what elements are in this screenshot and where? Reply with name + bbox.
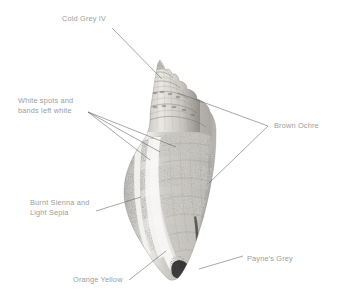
shell-colour-bands	[124, 132, 216, 280]
annotation-cold-grey-iv: Cold Grey IV	[62, 14, 106, 24]
annotation-white-spots: White spots and bands left white	[18, 96, 73, 115]
annotation-burnt-sienna-light-sepia: Burnt Sienna and Light Sepia	[30, 198, 90, 217]
annotation-orange-yellow: Orange Yellow	[73, 275, 123, 285]
annotation-brown-ochre: Brown Ochre	[274, 121, 319, 131]
illustration-page: Cold Grey IV White spots and bands left …	[0, 0, 339, 303]
annotation-paynes-grey: Payne's Grey	[247, 254, 293, 264]
